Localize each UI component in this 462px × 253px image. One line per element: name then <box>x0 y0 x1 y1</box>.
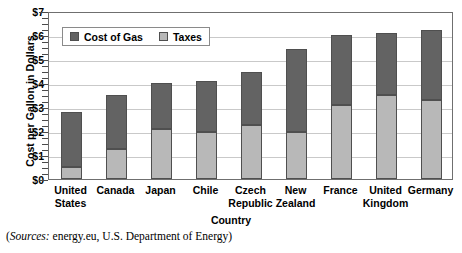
bar-united-kingdom <box>376 11 397 179</box>
bar-segment-cost-of-gas <box>241 72 262 125</box>
legend-item-cost-of-gas: Cost of Gas <box>70 31 143 43</box>
chart-legend: Cost of Gas Taxes <box>62 27 210 46</box>
source-note: (Sources: energy.eu, U.S. Department of … <box>6 230 232 242</box>
legend-label-cost-of-gas: Cost of Gas <box>84 31 143 43</box>
bar-segment-taxes <box>331 105 352 179</box>
legend-swatch-taxes <box>159 32 168 41</box>
y-tick-mark <box>39 60 48 61</box>
bar-segment-cost-of-gas <box>376 33 397 95</box>
bar-segment-cost-of-gas <box>331 35 352 105</box>
bar-segment-taxes <box>151 129 172 179</box>
bar-france <box>331 11 352 179</box>
bar-segment-taxes <box>376 95 397 179</box>
bar-segment-cost-of-gas <box>421 30 442 100</box>
y-tick-mark <box>39 108 48 109</box>
source-text: energy.eu, U.S. Department of Energy) <box>50 230 232 242</box>
bar-germany <box>421 11 442 179</box>
gas-price-chart-figure: Cost per Gallon in Dollars $0$1$2$3$4$5$… <box>0 0 462 253</box>
bar-segment-taxes <box>196 132 217 179</box>
bar-segment-taxes <box>106 149 127 179</box>
bar-segment-taxes <box>241 125 262 179</box>
y-tick-mark <box>39 132 48 133</box>
x-axis-title: Country <box>0 214 462 226</box>
bar-segment-taxes <box>286 132 307 179</box>
bar-segment-cost-of-gas <box>61 112 82 167</box>
bar-segment-taxes <box>421 100 442 179</box>
y-tick-mark <box>39 156 48 157</box>
y-tick-mark <box>39 12 48 13</box>
x-tick-label-germany: Germany <box>394 184 462 197</box>
bar-czech-republic <box>241 11 262 179</box>
source-italic-label: Sources: <box>10 230 50 242</box>
bar-segment-cost-of-gas <box>106 95 127 149</box>
bar-segment-cost-of-gas <box>196 81 217 133</box>
legend-label-taxes: Taxes <box>173 31 202 43</box>
y-tick-mark <box>39 180 48 181</box>
y-tick-mark <box>39 36 48 37</box>
bar-new-zealand <box>286 11 307 179</box>
legend-item-taxes: Taxes <box>159 31 202 43</box>
y-tick-mark <box>39 84 48 85</box>
bar-segment-cost-of-gas <box>151 83 172 129</box>
bar-segment-cost-of-gas <box>286 49 307 132</box>
legend-swatch-cost-of-gas <box>70 32 79 41</box>
bar-segment-taxes <box>61 167 82 179</box>
